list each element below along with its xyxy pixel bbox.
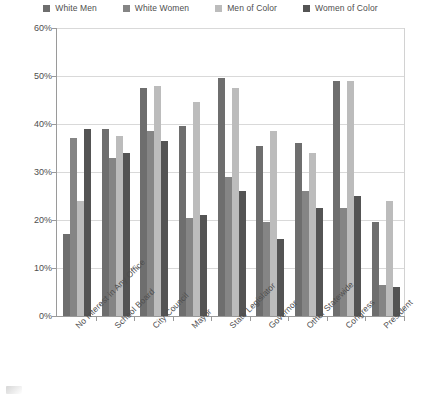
bar[interactable]	[193, 102, 200, 316]
x-tick-mark	[365, 317, 366, 321]
bar[interactable]	[154, 86, 161, 316]
y-tick-label: 20%	[12, 215, 52, 225]
bar-group-2	[140, 28, 168, 316]
y-axis-labels: 0%10%20%30%40%50%60%	[8, 0, 52, 401]
x-tick-mark	[96, 317, 97, 321]
bar[interactable]	[179, 126, 186, 316]
y-tick-label: 0%	[12, 311, 52, 321]
bar[interactable]	[225, 177, 232, 316]
y-tick-mark	[52, 124, 57, 125]
bar-group-5	[256, 28, 284, 316]
bar-group-4	[218, 28, 246, 316]
x-tick-mark	[173, 317, 174, 321]
y-tick-label: 10%	[12, 263, 52, 273]
legend-swatch-icon	[123, 5, 130, 12]
bar[interactable]	[218, 78, 225, 316]
bar[interactable]	[316, 208, 323, 316]
bar[interactable]	[263, 222, 270, 316]
x-tick-mark	[250, 317, 251, 321]
bar[interactable]	[70, 138, 77, 316]
y-tick-label: 40%	[12, 119, 52, 129]
bar-chart: White MenWhite WomenMen of ColorWomen of…	[0, 0, 421, 401]
plot-area	[57, 28, 404, 316]
x-tick-mark	[211, 317, 212, 321]
bar[interactable]	[333, 81, 340, 316]
y-tick-label: 30%	[12, 167, 52, 177]
bar-group-6	[295, 28, 323, 316]
bar[interactable]	[295, 143, 302, 316]
y-tick-mark	[52, 316, 57, 317]
legend-item-2[interactable]: Men of Color	[215, 3, 277, 13]
bar[interactable]	[200, 215, 207, 316]
bar[interactable]	[302, 191, 309, 316]
bar[interactable]	[354, 196, 361, 316]
bar[interactable]	[277, 239, 284, 316]
y-tick-mark	[52, 28, 57, 29]
y-tick-label: 60%	[12, 23, 52, 33]
legend-swatch-icon	[303, 5, 310, 12]
bar[interactable]	[186, 218, 193, 316]
legend-item-1[interactable]: White Women	[123, 3, 189, 13]
bar[interactable]	[161, 141, 168, 316]
x-tick-mark	[134, 317, 135, 321]
bar[interactable]	[379, 285, 386, 316]
bar-group-7	[333, 28, 361, 316]
bar[interactable]	[386, 201, 393, 316]
bar[interactable]	[239, 191, 246, 316]
bar-group-0	[63, 28, 91, 316]
bar-group-8	[372, 28, 400, 316]
legend-item-3[interactable]: Women of Color	[303, 3, 378, 13]
legend-item-label: Men of Color	[227, 3, 277, 13]
plot-right-border	[404, 28, 405, 317]
bar[interactable]	[84, 129, 91, 316]
x-tick-mark	[404, 317, 405, 321]
y-tick-mark	[52, 76, 57, 77]
y-tick-mark	[52, 268, 57, 269]
bar[interactable]	[232, 88, 239, 316]
legend-item-label: Women of Color	[315, 3, 378, 13]
legend-item-label: White Men	[55, 3, 97, 13]
bar[interactable]	[63, 234, 70, 316]
legend-item-label: White Women	[135, 3, 189, 13]
y-tick-mark	[52, 172, 57, 173]
x-tick-mark	[288, 317, 289, 321]
bar[interactable]	[123, 153, 130, 316]
chart-legend: White MenWhite WomenMen of ColorWomen of…	[0, 0, 421, 16]
bar[interactable]	[309, 153, 316, 316]
y-tick-label: 50%	[12, 71, 52, 81]
bar[interactable]	[77, 201, 84, 316]
y-tick-mark	[52, 220, 57, 221]
bar[interactable]	[140, 88, 147, 316]
x-tick-mark	[327, 317, 328, 321]
page-artifact	[6, 386, 22, 394]
legend-swatch-icon	[215, 5, 222, 12]
bar-group-3	[179, 28, 207, 316]
